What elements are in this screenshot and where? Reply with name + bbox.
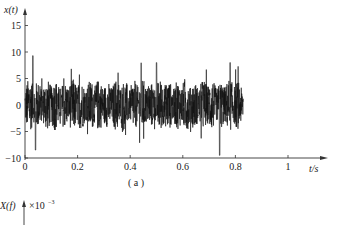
x-axis-arrow-icon	[320, 156, 328, 160]
x-tick-label: 0.8	[229, 161, 242, 172]
panel-label-a: ( a )	[128, 177, 144, 189]
x-axis-title: t/s	[309, 163, 319, 174]
panel-b-exponent: −3	[48, 199, 54, 205]
y-axis-title: x(t)	[3, 4, 19, 16]
y-tick-label: 0	[16, 100, 21, 111]
y-tick-label: 15	[11, 20, 21, 31]
x-tick-label: 0.6	[177, 161, 190, 172]
time-signal-chart: 00.20.40.60.81 −10−5051015 t/s x(t) ( a …	[0, 0, 338, 225]
y-tick-label: 5	[16, 73, 21, 84]
panel-b-y-arrow-icon	[22, 200, 26, 207]
y-tick-label: −10	[5, 153, 21, 164]
y-tick-label: −5	[10, 126, 21, 137]
x-tick-label: 0	[23, 161, 28, 172]
axes	[23, 8, 328, 160]
y-tick-label: 10	[11, 47, 21, 58]
y-axis-arrow-icon	[23, 8, 27, 15]
panel-b-y-title: X(f)	[0, 200, 16, 212]
x-tick-label: 0.4	[124, 161, 137, 172]
panel-b-multiplier: ×10	[29, 200, 45, 211]
x-tick-label: 0.2	[71, 161, 84, 172]
signal-waveform	[25, 56, 243, 156]
x-tick-label: 1	[286, 161, 291, 172]
